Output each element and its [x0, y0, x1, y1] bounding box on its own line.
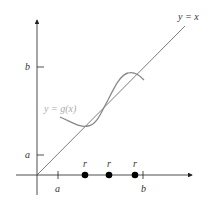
y-tick-a-label: a: [25, 149, 30, 160]
y-tick-b-label: b: [25, 61, 30, 72]
fixed-point-1: [82, 172, 89, 179]
identity-line-label: y = x: [177, 11, 199, 22]
x-tick-a-label: a: [55, 183, 60, 194]
fixed-point-2-label: r: [107, 158, 111, 169]
identity-line: [37, 26, 185, 175]
g-curve: [60, 73, 144, 127]
fixed-point-diagram: y = x y = g(x) b a a b r r r: [0, 0, 214, 200]
g-curve-label: y = g(x): [43, 103, 77, 115]
fixed-point-3: [132, 172, 139, 179]
x-tick-b-label: b: [141, 183, 146, 194]
fixed-point-2: [106, 172, 113, 179]
fixed-point-3-label: r: [133, 158, 137, 169]
fixed-point-1-label: r: [83, 158, 87, 169]
